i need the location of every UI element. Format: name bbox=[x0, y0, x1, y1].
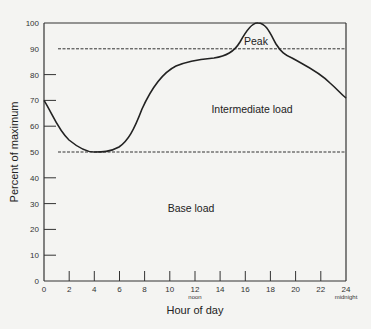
x-axis-ticks bbox=[69, 271, 321, 281]
base-load-annotation: Base load bbox=[168, 202, 215, 214]
x-tick-12: 12 bbox=[191, 285, 200, 294]
x-tick-2: 2 bbox=[67, 285, 72, 294]
y-tick-50: 50 bbox=[30, 148, 39, 157]
x-axis-label: Hour of day bbox=[167, 304, 224, 316]
y-tick-0: 0 bbox=[35, 277, 40, 286]
x-tick-18: 18 bbox=[266, 285, 275, 294]
load-curve bbox=[44, 23, 346, 152]
x-tick-labels: 0 2 4 6 8 10 12 noon 14 16 18 20 22 24 m… bbox=[42, 285, 358, 300]
y-axis-label: Percent of maximum bbox=[8, 102, 20, 203]
y-tick-40: 40 bbox=[30, 174, 39, 183]
y-tick-80: 80 bbox=[30, 71, 39, 80]
x-tick-16: 16 bbox=[241, 285, 250, 294]
y-tick-90: 90 bbox=[30, 45, 39, 54]
y-axis-ticks bbox=[44, 75, 56, 256]
y-tick-30: 30 bbox=[30, 200, 39, 209]
y-tick-70: 70 bbox=[30, 96, 39, 105]
x-tick-14: 14 bbox=[216, 285, 225, 294]
x-tick-4: 4 bbox=[92, 285, 97, 294]
load-curve-chart: 0 10 20 30 40 50 60 70 80 90 100 0 2 4 6… bbox=[0, 0, 371, 329]
y-tick-100: 100 bbox=[26, 19, 40, 28]
x-tick-6: 6 bbox=[117, 285, 122, 294]
x-tick-20: 20 bbox=[291, 285, 300, 294]
y-tick-20: 20 bbox=[30, 225, 39, 234]
x-sublabel-noon: noon bbox=[188, 294, 201, 300]
x-sublabel-midnight: midnight bbox=[335, 294, 358, 300]
x-tick-8: 8 bbox=[142, 285, 147, 294]
x-tick-0: 0 bbox=[42, 285, 47, 294]
intermediate-load-annotation: Intermediate load bbox=[211, 103, 292, 115]
y-tick-labels: 0 10 20 30 40 50 60 70 80 90 100 bbox=[26, 19, 40, 286]
x-tick-24: 24 bbox=[342, 285, 351, 294]
x-tick-22: 22 bbox=[316, 285, 325, 294]
x-tick-10: 10 bbox=[165, 285, 174, 294]
y-tick-60: 60 bbox=[30, 122, 39, 131]
y-tick-10: 10 bbox=[30, 251, 39, 260]
peak-annotation: Peak bbox=[244, 35, 269, 47]
